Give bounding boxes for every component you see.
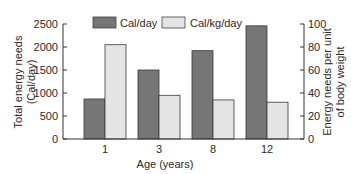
left-tick-label: 0: [52, 133, 58, 145]
right-tick-label: 60: [308, 64, 320, 76]
x-tick-label: 8: [210, 143, 216, 155]
right-tick-label: 40: [308, 87, 320, 99]
right-tick-label: 0: [308, 133, 314, 145]
left-tick-label: 2500: [34, 18, 58, 30]
bar-cal-kg-day-age-3: [159, 95, 180, 139]
x-tick-label: 3: [156, 143, 162, 155]
left-y-axis-title-line2: (Cal/day): [25, 60, 37, 105]
x-axis: 13812: [63, 139, 304, 155]
bar-cal-kg-day-age-1: [105, 45, 126, 139]
legend-swatch-cal-day: [93, 17, 116, 28]
x-axis-title: Age (years): [137, 158, 194, 170]
x-tick-label: 12: [261, 143, 273, 155]
left-tick-label: 2000: [34, 41, 58, 53]
bar-cal-day-age-8: [192, 51, 213, 139]
right-y-axis-title-line2: of body weight: [334, 47, 346, 118]
plot-area: [84, 26, 288, 139]
left-tick-label: 500: [40, 110, 58, 122]
left-tick-label: 1500: [34, 64, 58, 76]
bar-cal-kg-day-age-8: [213, 100, 234, 139]
bar-cal-day-age-1: [84, 99, 105, 139]
right-tick-label: 20: [308, 110, 320, 122]
right-y-axis-title-line1: Energy needs per unit: [321, 28, 333, 136]
left-y-axis: 05001000150020002500: [34, 18, 67, 145]
bar-cal-day-age-12: [246, 26, 267, 139]
legend-label-cal-day: Cal/day: [120, 17, 158, 29]
bar-cal-day-age-3: [138, 70, 159, 139]
right-tick-label: 80: [308, 41, 320, 53]
bar-cal-kg-day-age-12: [267, 102, 288, 139]
legend-label-cal-kg-day: Cal/kg/day: [190, 17, 242, 29]
legend: Cal/day Cal/kg/day: [93, 17, 242, 29]
left-y-axis-title-line1: Total energy needs: [12, 35, 24, 128]
left-tick-label: 1000: [34, 87, 58, 99]
x-tick-label: 1: [102, 143, 108, 155]
legend-swatch-cal-kg-day: [162, 17, 185, 28]
dual-axis-bar-chart: 05001000150020002500 020406080100 13812 …: [0, 0, 351, 174]
